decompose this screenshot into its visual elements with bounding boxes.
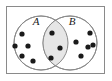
set-b-label: B [69,15,76,27]
venn-diagram-canvas: A B [0,0,112,81]
element-dot [90,42,95,47]
element-dot [87,30,92,35]
element-dot [30,58,35,63]
element-dot [85,44,90,49]
element-dot [57,45,62,50]
element-dot [73,39,78,44]
element-dot [12,43,17,48]
element-dot [48,55,53,60]
venn-diagram-figure: A B [0,0,112,81]
element-dot [78,53,83,58]
element-dot [19,53,24,58]
set-a-label: A [32,15,40,27]
element-dot [19,31,24,36]
element-dot [25,43,30,48]
element-dot [49,30,54,35]
